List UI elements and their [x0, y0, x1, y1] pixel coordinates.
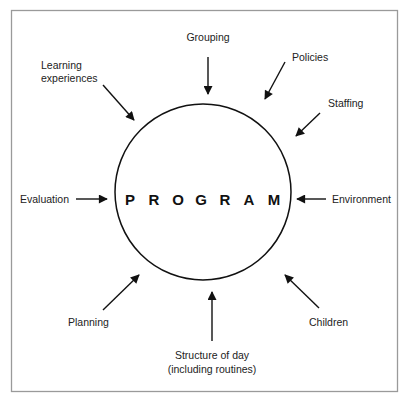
factor-structure-of-day: Structure of day [175, 349, 250, 361]
factor-children: Children [309, 316, 348, 328]
program-letter: R [149, 191, 160, 208]
program-letter: M [268, 191, 281, 208]
factor-learning-experiences-line2: experiences [41, 72, 98, 84]
program-letter: O [172, 191, 184, 208]
arrow-learning-experiences [103, 85, 134, 120]
arrow-planning [103, 275, 139, 310]
arrow-staffing [296, 113, 320, 136]
factor-environment: Environment [332, 193, 391, 205]
factor-structure-of-day-note: (including routines) [168, 363, 257, 375]
program-letter: G [195, 191, 207, 208]
factor-planning: Planning [68, 316, 109, 328]
program-letter: A [244, 191, 255, 208]
factor-learning-experiences: Learning [41, 59, 82, 71]
factor-policies: Policies [292, 51, 328, 63]
program-letter: R [220, 191, 231, 208]
program-letter: P [125, 191, 135, 208]
arrow-children [285, 275, 319, 308]
factor-evaluation: Evaluation [20, 193, 69, 205]
program-influences-diagram: P R O G R A M Grouping Policies Staffing… [0, 0, 406, 402]
factor-staffing: Staffing [328, 97, 364, 109]
factor-grouping: Grouping [186, 31, 229, 43]
arrow-policies [265, 62, 285, 99]
program-label: P R O G R A M [125, 191, 280, 208]
